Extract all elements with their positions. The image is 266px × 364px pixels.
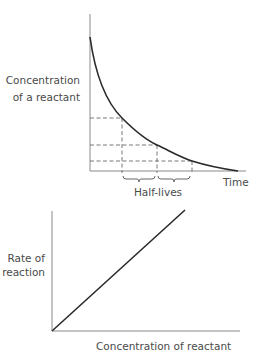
rate-chart: Rate of reaction Concentration of reacta… xyxy=(2,210,240,352)
rate-line xyxy=(52,210,185,331)
half-lives-brace xyxy=(123,176,190,182)
rate-ylabel-line2: reaction xyxy=(2,266,45,278)
decay-ylabel-line2: of a reactant xyxy=(13,91,80,103)
decay-ylabel-line1: Concentration xyxy=(6,74,80,86)
rate-ylabel-line1: Rate of xyxy=(7,252,45,264)
half-lives-label: Half-lives xyxy=(134,186,182,198)
figure: Concentration of a reactant Time Half-li… xyxy=(0,0,266,364)
decay-xlabel: Time xyxy=(222,176,249,188)
decay-chart: Concentration of a reactant Time Half-li… xyxy=(6,14,249,198)
decay-curve xyxy=(90,37,238,171)
rate-xlabel: Concentration of reactant xyxy=(96,340,231,352)
half-life-guides xyxy=(90,118,192,173)
